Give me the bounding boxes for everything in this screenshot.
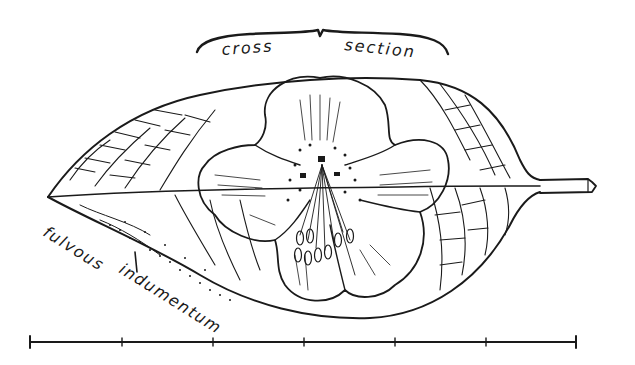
cross-section-label-2: section [344, 35, 417, 61]
scale-bar [30, 336, 576, 348]
indumentum-label-1: fulvous [40, 222, 108, 274]
botanical-drawing: cross section [0, 0, 635, 365]
petal-striations [215, 95, 432, 290]
indumentum-label-2: indumentum [116, 259, 226, 337]
illustration: cross section [0, 0, 635, 365]
leaf-veins-upper [70, 80, 510, 190]
cross-section-label-1: cross [221, 36, 274, 59]
